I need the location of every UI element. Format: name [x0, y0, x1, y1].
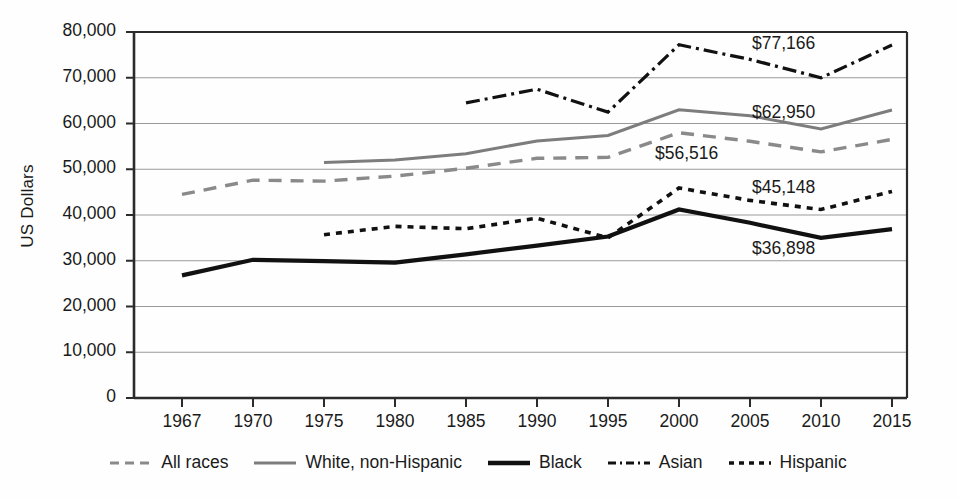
legend-swatch-black [488, 456, 530, 470]
gridlines [134, 32, 907, 398]
legend-swatch-white-non-hispanic [254, 456, 296, 470]
value-label-asian: $77,166 [752, 33, 815, 54]
legend-item-all-races[interactable]: All races [110, 452, 228, 473]
axis-ticks [126, 32, 892, 407]
legend-label-all-races: All races [161, 452, 228, 473]
x-tick-label: 1980 [355, 411, 435, 432]
x-tick-label: 2005 [710, 411, 790, 432]
legend-item-asian[interactable]: Asian [608, 452, 703, 473]
legend-label-asian: Asian [659, 452, 703, 473]
y-tick-label: 40,000 [24, 203, 116, 224]
x-tick-label: 1967 [142, 411, 222, 432]
x-tick-label: 1985 [426, 411, 506, 432]
value-label-white-non-hispanic: $62,950 [752, 102, 815, 123]
legend-item-black[interactable]: Black [488, 452, 582, 473]
x-tick-label: 1990 [497, 411, 577, 432]
legend-label-white-non-hispanic: White, non-Hispanic [305, 452, 462, 473]
value-label-hispanic: $45,148 [752, 177, 815, 198]
legend-item-hispanic[interactable]: Hispanic [729, 452, 847, 473]
y-tick-label: 10,000 [24, 340, 116, 361]
y-tick-label: 30,000 [24, 249, 116, 270]
x-tick-label: 1970 [213, 411, 293, 432]
y-tick-label: 60,000 [24, 112, 116, 133]
chart-legend: All races White, non-Hispanic Black Asia… [0, 452, 957, 473]
y-tick-label: 80,000 [24, 20, 116, 41]
income-by-race-line-chart: US Dollars 80,00070,00060,00050,00040,00… [0, 0, 957, 499]
legend-swatch-hispanic [729, 456, 771, 470]
value-label-black: $36,898 [752, 238, 815, 259]
x-tick-label: 2010 [781, 411, 861, 432]
x-tick-label: 2015 [852, 411, 932, 432]
y-tick-label: 50,000 [24, 157, 116, 178]
legend-swatch-all-races [110, 456, 152, 470]
y-tick-label: 70,000 [24, 66, 116, 87]
series-line-asian [466, 45, 892, 112]
legend-label-hispanic: Hispanic [780, 452, 847, 473]
value-label-all-races: $56,516 [655, 143, 718, 164]
x-tick-label: 2000 [639, 411, 719, 432]
y-tick-label: 0 [24, 386, 116, 407]
legend-item-white-non-hispanic[interactable]: White, non-Hispanic [254, 452, 462, 473]
x-tick-label: 1975 [284, 411, 364, 432]
y-tick-label: 20,000 [24, 295, 116, 316]
legend-label-black: Black [539, 452, 582, 473]
legend-swatch-asian [608, 456, 650, 470]
x-tick-label: 1995 [568, 411, 648, 432]
